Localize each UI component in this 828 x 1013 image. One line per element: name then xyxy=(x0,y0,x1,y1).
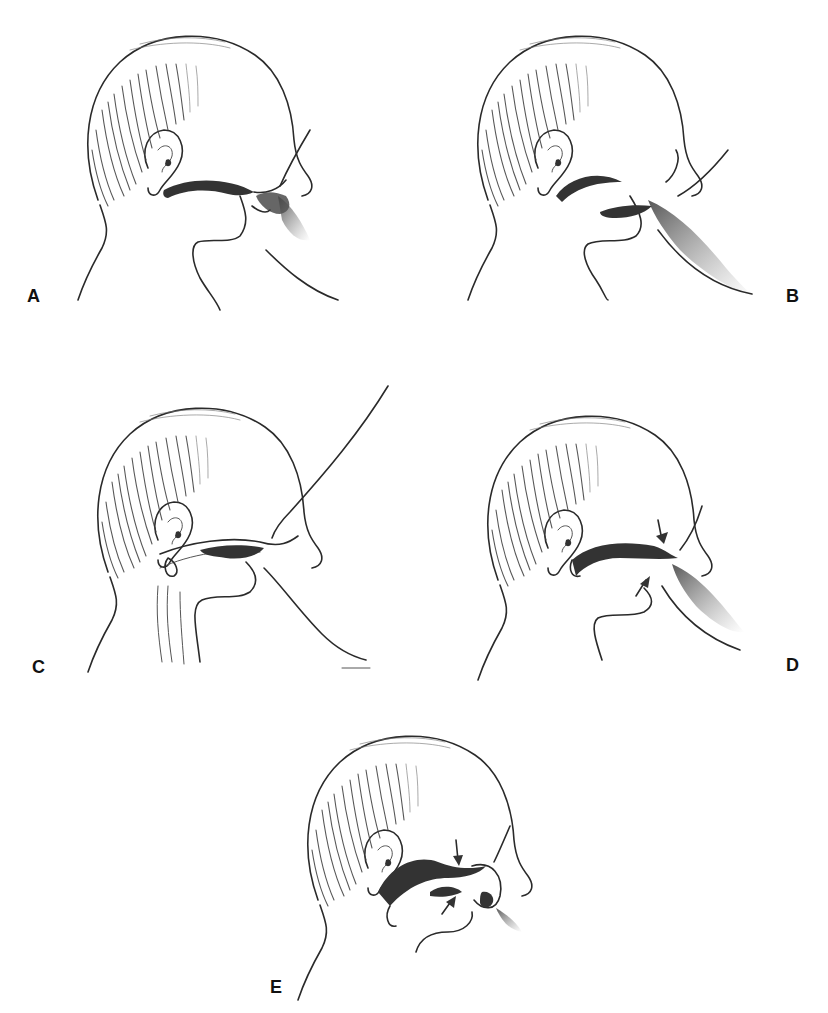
panel-d-illustration xyxy=(440,380,770,660)
infant-profile-drawing xyxy=(430,0,770,310)
arrow-icon xyxy=(442,896,456,914)
infant-profile-drawing xyxy=(440,380,770,660)
arrow-icon xyxy=(656,520,668,544)
panel-c-illustration xyxy=(50,372,400,672)
infant-profile-drawing xyxy=(50,372,400,672)
panel-label-a: A xyxy=(27,287,40,305)
panel-label-d: D xyxy=(786,656,799,674)
panel-label-e: E xyxy=(270,978,282,996)
panel-label-c: C xyxy=(32,658,45,676)
panel-label-b: B xyxy=(786,287,799,305)
panel-b-illustration xyxy=(430,0,770,310)
infant-profile-drawing xyxy=(40,0,360,310)
panel-e-illustration xyxy=(260,700,540,960)
infant-profile-drawing xyxy=(260,700,540,960)
arrow-icon xyxy=(453,840,463,866)
panel-a-illustration xyxy=(40,0,360,310)
